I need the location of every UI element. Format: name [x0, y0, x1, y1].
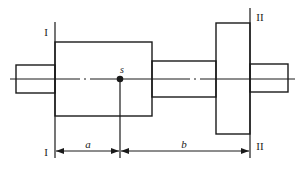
center-of-mass-point [117, 76, 124, 83]
dimension-a-label: a [85, 138, 91, 150]
right-shaft-stub [250, 64, 288, 92]
plane-II-bottom-label: II [256, 140, 264, 152]
dimension-b-label: b [181, 138, 187, 150]
plane-I-bottom-label: I [44, 146, 48, 158]
center-of-mass-label: s [120, 64, 124, 75]
shaft-diagram: I I II II s a b [0, 0, 301, 174]
plane-I-top-label: I [44, 26, 48, 38]
plane-II-top-label: II [256, 11, 264, 23]
